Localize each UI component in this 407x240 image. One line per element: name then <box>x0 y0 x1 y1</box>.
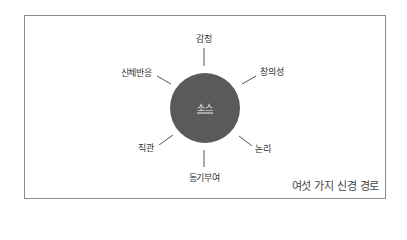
spoke-top-right <box>242 76 256 84</box>
node-label-body-response: 신체반응 <box>121 66 152 79</box>
node-label-motivation: 동기부여 <box>189 171 220 184</box>
center-label: 소스 <box>197 103 213 114</box>
node-label-creativity: 창의성 <box>260 65 283 78</box>
spoke-top-left <box>157 76 171 84</box>
spoke-bottom-right <box>239 136 252 146</box>
node-label-intuition: 직관 <box>138 141 153 154</box>
diagram-caption: 여섯 가지 신경 경로 <box>292 177 379 193</box>
node-label-emotion: 감정 <box>196 32 211 45</box>
spoke-bottom-left <box>159 135 173 145</box>
node-label-logic: 논리 <box>255 142 270 155</box>
